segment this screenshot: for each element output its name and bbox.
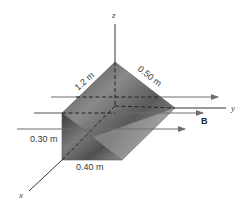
- z-axis-label: z: [111, 10, 116, 20]
- x-axis: [29, 160, 62, 191]
- base-dimension-label: 0.40 m: [76, 162, 104, 172]
- wedge-flux-diagram: z y x B 1.2 m 0.50 m 0.30 m 0.40 m: [0, 0, 244, 209]
- y-axis-label: y: [230, 103, 235, 113]
- x-axis-label: x: [18, 190, 23, 200]
- field-label-B: B: [201, 116, 208, 126]
- height-dimension-label: 0.30 m: [30, 134, 58, 144]
